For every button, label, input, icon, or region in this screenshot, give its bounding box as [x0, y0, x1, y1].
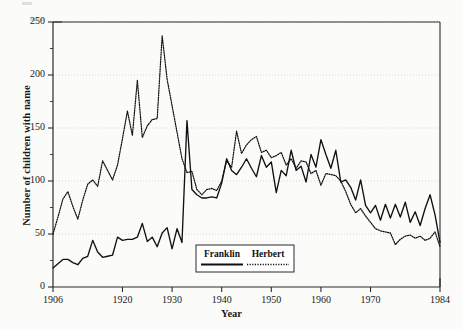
- x-axis-title: Year: [0, 308, 463, 319]
- x-tick-label-1970: 1970: [346, 294, 396, 305]
- x-tick-label-1960: 1960: [296, 294, 346, 305]
- chart-figure: FranklinHerbert Number of children with …: [0, 0, 463, 329]
- y-tick-label-150: 150: [0, 121, 45, 132]
- legend-label-herbert: Herbert: [252, 249, 286, 259]
- legend-label-franklin: Franklin: [204, 249, 241, 259]
- x-tick-label-1984: 1984: [415, 294, 463, 305]
- x-tick-label-1906: 1906: [28, 294, 78, 305]
- y-tick-label-100: 100: [0, 174, 45, 185]
- y-tick-label-200: 200: [0, 68, 45, 79]
- y-tick-label-0: 0: [0, 280, 45, 291]
- y-axis-title: Number of children with name: [21, 56, 32, 256]
- x-tick-label-1930: 1930: [147, 294, 197, 305]
- x-tick-label-1940: 1940: [197, 294, 247, 305]
- y-tick-label-250: 250: [0, 15, 45, 26]
- line-chart-plot: FranklinHerbert: [0, 0, 463, 329]
- y-tick-label-50: 50: [0, 227, 45, 238]
- x-tick-label-1950: 1950: [246, 294, 296, 305]
- x-tick-label-1920: 1920: [97, 294, 147, 305]
